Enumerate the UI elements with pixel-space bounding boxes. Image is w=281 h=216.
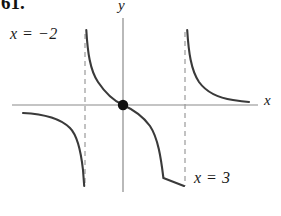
right-asymptote-label: x = 3 (194, 170, 230, 186)
left-asymptote-label: x = −2 (10, 26, 58, 42)
graph-figure: 61. x = −2 x = 3 y x (0, 0, 281, 216)
curve-branch-left (23, 113, 84, 186)
y-axis-label: y (118, 0, 125, 13)
curve-branch-middle (86, 30, 184, 186)
x-axis-label: x (264, 93, 271, 108)
curve-branch-right (187, 30, 249, 102)
origin-point-marker (118, 100, 128, 110)
